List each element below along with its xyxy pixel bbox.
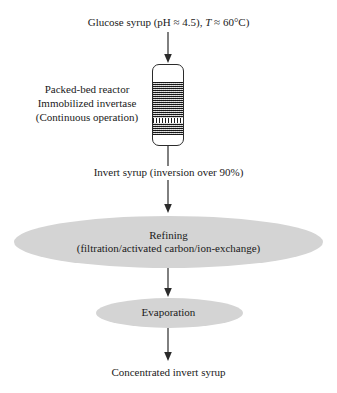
- reactor-description-label: Packed-bed reactor Immobilized invertase…: [24, 82, 150, 124]
- process-flow-diagram: Glucose syrup (pH ≈ 4.5), T ≈ 60°C) Pack…: [0, 0, 337, 393]
- evaporation-stage-label: Evaporation: [0, 306, 337, 319]
- arrow-refining-to-evaporation: [160, 268, 176, 298]
- feed-label-suffix: ≈ 60°C): [211, 16, 249, 28]
- bed-support-grid: [153, 118, 183, 123]
- feed-stream-label: Glucose syrup (pH ≈ 4.5), T ≈ 60°C): [0, 16, 337, 29]
- arrow-reactor-to-refining: [160, 180, 176, 214]
- arrow-feed-to-reactor: [160, 32, 176, 64]
- refining-subtitle: (filtration/activated carbon/ion-exchang…: [0, 242, 337, 255]
- final-product-label: Concentrated invert syrup: [0, 366, 337, 379]
- refining-stage-label: Refining (filtration/activated carbon/io…: [0, 229, 337, 255]
- feed-label-prefix: Glucose syrup (pH ≈ 4.5),: [88, 16, 206, 28]
- reactor-outlet-line: [160, 146, 176, 166]
- immobilized-enzyme-bed: [153, 82, 183, 135]
- packed-bed-reactor-vessel: [152, 64, 184, 146]
- invert-syrup-label: Invert syrup (inversion over 90%): [0, 166, 337, 179]
- arrow-evaporation-to-product: [160, 328, 176, 362]
- reactor-label-line-1: Packed-bed reactor: [24, 82, 150, 96]
- reactor-label-line-2: Immobilized invertase: [24, 96, 150, 110]
- reactor-label-line-3: (Continuous operation): [24, 110, 150, 124]
- refining-title: Refining: [0, 229, 337, 242]
